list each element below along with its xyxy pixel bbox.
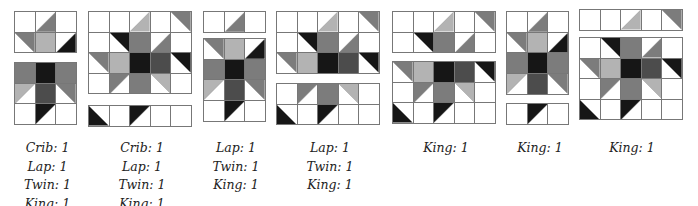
black-half-triangle (601, 38, 621, 58)
white-square (642, 100, 662, 120)
white-square (245, 101, 265, 121)
quilt-block-piece (392, 11, 496, 53)
light-half-triangle (318, 12, 338, 32)
white-square (56, 104, 76, 124)
white-square (359, 105, 379, 125)
white-square (662, 38, 682, 58)
white-square (339, 105, 359, 125)
size-quantity-label: King: 1 (290, 176, 370, 195)
dark-square (455, 62, 475, 82)
yardage-labels: King: 1 (500, 139, 580, 158)
med-half-triangle (36, 12, 56, 32)
med-square (318, 84, 338, 104)
black-half-triangle (359, 53, 379, 73)
black-half-triangle (130, 106, 150, 126)
med-half-triangle (393, 62, 413, 82)
light-half-triangle (339, 84, 359, 104)
quilt-block-piece (203, 38, 266, 122)
white-square (455, 103, 475, 123)
black-half-triangle (548, 33, 568, 53)
light-half-triangle (204, 80, 224, 100)
quilt-block-piece (88, 105, 192, 127)
dark-square (528, 74, 548, 94)
white-square (662, 79, 682, 99)
size-quantity-label: King: 1 (102, 195, 182, 206)
white-square (277, 12, 297, 32)
size-quantity-label: Crib: 1 (10, 139, 85, 158)
white-square (642, 10, 662, 30)
white-square (15, 12, 35, 32)
med-half-triangle (455, 33, 475, 53)
light-half-triangle (621, 10, 641, 30)
black-half-triangle (225, 101, 245, 121)
black-square (621, 59, 641, 79)
black-half-triangle (89, 106, 109, 126)
black-half-triangle (475, 62, 495, 82)
med-square (245, 60, 265, 80)
quilt-block-piece (392, 61, 496, 124)
yardage-labels: King: 1 (406, 139, 486, 158)
black-half-triangle (171, 53, 191, 73)
quilt-block-piece (14, 62, 77, 125)
med-square (130, 74, 150, 94)
light-square (225, 39, 245, 59)
size-quantity-label: Lap: 1 (102, 158, 182, 177)
yardage-labels: Crib: 1Lap: 1Twin: 1King: 1 (10, 139, 85, 206)
white-square (171, 74, 191, 94)
white-square (89, 12, 109, 32)
black-half-triangle (414, 33, 434, 53)
white-square (89, 33, 109, 53)
light-square (528, 33, 548, 53)
quilt-block-piece (88, 11, 192, 94)
white-square (414, 12, 434, 32)
light-square (36, 33, 56, 53)
size-quantity-label: Twin: 1 (290, 158, 370, 177)
white-square (151, 12, 171, 32)
quilt-block-piece (276, 11, 380, 74)
quilt-block-piece (203, 11, 266, 33)
light-half-triangle (507, 74, 527, 94)
med-square (548, 53, 568, 73)
light-square (414, 62, 434, 82)
med-square (15, 63, 35, 83)
black-half-triangle (528, 104, 548, 124)
med-half-triangle (339, 33, 359, 53)
black-half-triangle (393, 103, 413, 123)
white-square (171, 33, 191, 53)
dark-square (339, 53, 359, 73)
black-half-triangle (621, 100, 641, 120)
white-square (298, 12, 318, 32)
med-half-triangle (642, 38, 662, 58)
black-half-triangle (56, 33, 76, 53)
size-quantity-label: Twin: 1 (196, 158, 276, 177)
white-square (298, 105, 318, 125)
white-square (339, 12, 359, 32)
med-half-triangle (245, 80, 265, 100)
white-square (89, 74, 109, 94)
size-quantity-label: King: 1 (196, 176, 276, 195)
dark-square (36, 84, 56, 104)
black-square (225, 60, 245, 80)
black-half-triangle (110, 33, 130, 53)
white-square (56, 12, 76, 32)
med-half-triangle (507, 33, 527, 53)
dark-square (642, 59, 662, 79)
white-square (393, 12, 413, 32)
white-square (548, 12, 568, 32)
white-square (580, 38, 600, 58)
white-square (414, 103, 434, 123)
white-square (204, 101, 224, 121)
med-half-triangle (580, 59, 600, 79)
yardage-labels: Lap: 1Twin: 1King: 1 (196, 139, 276, 195)
dark-square (225, 80, 245, 100)
white-square (601, 10, 621, 30)
white-square (110, 12, 130, 32)
yardage-labels: Crib: 1Lap: 1Twin: 1King: 1 (102, 139, 182, 206)
med-half-triangle (110, 74, 130, 94)
black-square (36, 63, 56, 83)
white-square (151, 106, 171, 126)
size-quantity-label: King: 1 (406, 139, 486, 158)
yardage-labels: Lap: 1Twin: 1King: 1 (290, 139, 370, 195)
white-square (475, 103, 495, 123)
quilt-block-piece (506, 103, 569, 125)
